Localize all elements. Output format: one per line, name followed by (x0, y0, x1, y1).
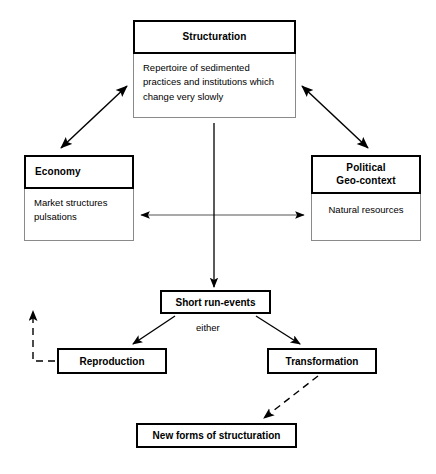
node-geocontext-body: Natural resources (311, 194, 421, 241)
node-reproduction[interactable]: Reproduction (57, 348, 167, 374)
diagram-canvas: Structuration Repertoire of sedimented p… (0, 0, 436, 474)
node-new-forms-label: New forms of structuration (153, 430, 281, 441)
edge-structuration-economy (61, 86, 127, 148)
edge-label-either: either (196, 322, 220, 333)
edge-shortrun-reproduction (133, 316, 175, 344)
edge-reproduction-feedback (33, 311, 55, 361)
edge-shortrun-transformation (256, 316, 300, 344)
node-geocontext[interactable]: Political Geo-context Natural resources (311, 155, 421, 241)
node-new-forms-of-structuration[interactable]: New forms of structuration (136, 423, 297, 448)
node-transformation[interactable]: Transformation (267, 348, 377, 374)
node-short-run-events[interactable]: Short run-events (160, 290, 271, 314)
node-structuration[interactable]: Structuration Repertoire of sedimented p… (133, 20, 296, 118)
node-structuration-header: Structuration (133, 20, 296, 54)
node-economy-header: Economy (24, 155, 134, 189)
node-geocontext-header-line1: Political (346, 162, 385, 173)
node-transformation-label: Transformation (286, 356, 359, 367)
node-geocontext-header: Political Geo-context (311, 155, 421, 194)
node-short-run-events-label: Short run-events (175, 297, 255, 308)
edge-structuration-geocontext (302, 86, 368, 148)
node-economy-body: Market structures pulsations (24, 189, 134, 241)
node-structuration-body: Repertoire of sedimented practices and i… (133, 54, 296, 118)
edge-transformation-newforms (264, 376, 318, 418)
node-geocontext-header-line2: Geo-context (336, 175, 395, 186)
node-economy[interactable]: Economy Market structures pulsations (24, 155, 134, 241)
node-reproduction-label: Reproduction (80, 356, 145, 367)
